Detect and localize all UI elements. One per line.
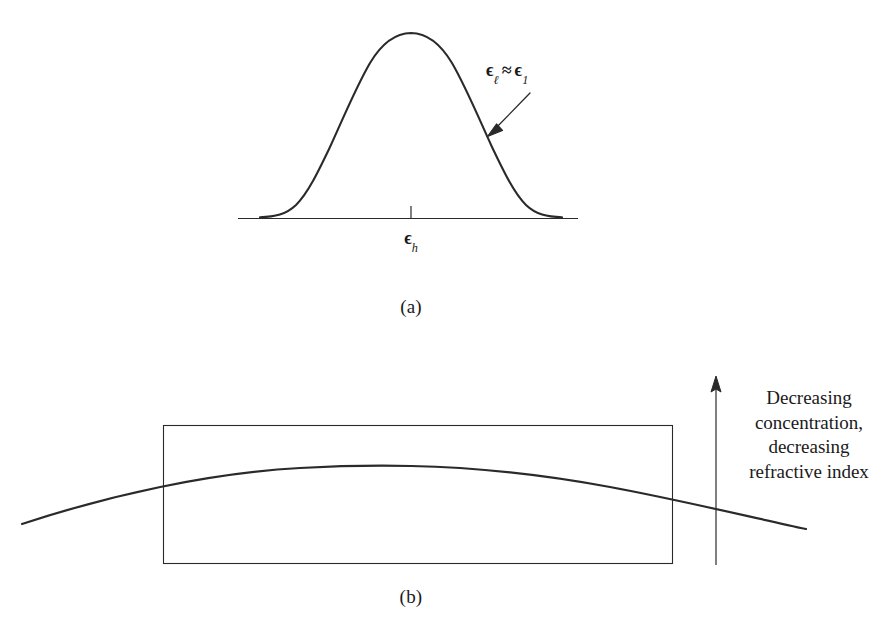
epsilon-low-label: ϵℓ≈ϵ1	[486, 60, 528, 81]
epsilon-low-subscript: ℓ	[494, 73, 499, 87]
figure-graphics	[0, 0, 884, 638]
panel-a-caption: (a)	[400, 296, 422, 318]
panel-b-graphics	[22, 376, 806, 565]
panel-a-annotation-arrow	[488, 93, 531, 137]
epsilon-one-subscript: 1	[522, 73, 528, 87]
annotation-line-3: decreasing	[735, 435, 883, 460]
epsilon-high-label: ϵh	[404, 228, 418, 249]
gradient-direction-annotation: Decreasing concentration, decreasing ref…	[735, 386, 883, 485]
approx-sign: ≈	[499, 60, 515, 80]
epsilon-low-symbol: ϵ	[486, 60, 494, 80]
panel-b-direction-arrow	[711, 376, 721, 565]
panel-b-slab-rectangle	[164, 426, 673, 564]
epsilon-high-subscript: h	[412, 241, 418, 255]
annotation-line-1: Decreasing	[735, 386, 883, 411]
annotation-line-2: concentration,	[735, 411, 883, 436]
epsilon-high-symbol: ϵ	[404, 228, 412, 248]
panel-b-caption: (b)	[400, 586, 423, 608]
figure-container: ϵℓ≈ϵ1 ϵh Decreasing concentration, decre…	[0, 0, 884, 638]
panel-b-gradient-arc	[22, 466, 806, 529]
annotation-line-4: refractive index	[735, 460, 883, 485]
